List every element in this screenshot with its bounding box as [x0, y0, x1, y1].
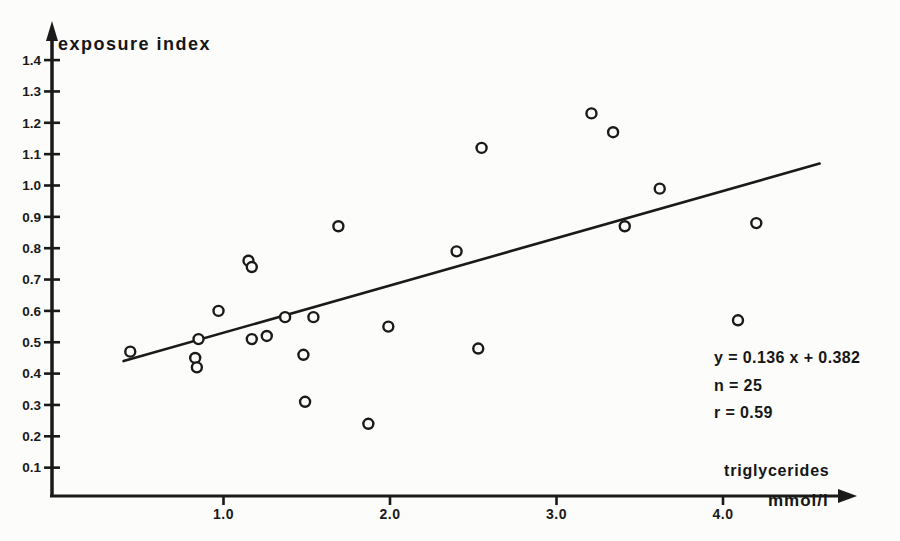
y-tick-label: 1.2: [22, 116, 41, 131]
y-tick-label: 0.4: [22, 366, 41, 381]
y-tick-label: 0.1: [22, 460, 41, 475]
data-point: [586, 108, 596, 118]
x-axis-label: triglycerides: [724, 462, 830, 480]
y-tick-label: 0.8: [22, 241, 41, 256]
sample-size-text: n = 25: [714, 372, 860, 400]
data-point: [620, 221, 630, 231]
y-axis-arrow-icon: [46, 21, 58, 41]
data-point: [477, 143, 487, 153]
data-point: [751, 218, 761, 228]
y-tick-label: 0.3: [22, 398, 41, 413]
x-axis-arrow-icon: [838, 489, 857, 503]
data-point: [280, 312, 290, 322]
data-point: [655, 184, 665, 194]
data-point: [333, 221, 343, 231]
y-tick-label: 0.7: [22, 272, 41, 287]
y-tick-label: 0.5: [22, 335, 41, 350]
data-point: [733, 315, 743, 325]
correlation-text: r = 0.59: [714, 399, 860, 427]
regression-line: [124, 164, 820, 362]
x-tick-label: 1.0: [213, 506, 234, 522]
data-point: [192, 362, 202, 372]
data-point: [194, 334, 204, 344]
data-point: [363, 419, 373, 429]
data-point: [298, 350, 308, 360]
x-tick-label: 3.0: [546, 506, 567, 522]
regression-equation-text: y = 0.136 x + 0.382: [714, 344, 860, 372]
data-point: [308, 312, 318, 322]
y-tick-label: 1.0: [22, 178, 41, 193]
x-axis-unit-label: mmol/l: [768, 491, 829, 511]
data-point: [383, 322, 393, 332]
data-point: [473, 344, 483, 354]
data-point: [300, 397, 310, 407]
chart-title: exposure index: [58, 34, 211, 55]
x-tick-label: 4.0: [713, 506, 734, 522]
data-point: [452, 246, 462, 256]
x-tick-label: 2.0: [380, 506, 401, 522]
data-point: [125, 347, 135, 357]
data-point: [608, 127, 618, 137]
data-point: [247, 262, 257, 272]
y-tick-label: 0.9: [22, 210, 41, 225]
stats-annotation: y = 0.136 x + 0.382 n = 25 r = 0.59: [714, 344, 860, 427]
scatter-plot-figure: 0.10.20.30.40.50.60.70.80.91.01.11.21.31…: [0, 0, 900, 541]
data-point: [262, 331, 272, 341]
y-tick-label: 0.6: [22, 304, 41, 319]
y-tick-label: 1.1: [22, 147, 41, 162]
y-tick-label: 1.4: [22, 53, 41, 68]
data-point: [247, 334, 257, 344]
chart-canvas: 0.10.20.30.40.50.60.70.80.91.01.11.21.31…: [0, 0, 900, 541]
y-tick-label: 1.3: [22, 84, 41, 99]
y-tick-label: 0.2: [22, 429, 41, 444]
data-point: [214, 306, 224, 316]
